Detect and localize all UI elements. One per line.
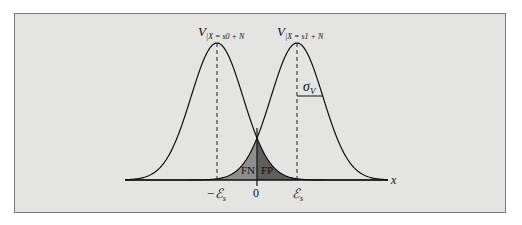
fn-label: FN xyxy=(241,164,255,176)
fn-region xyxy=(125,138,257,180)
gaussian-diagram: σV V|X = s0 + N V|X = s1 + N FN FP −ℰs 0… xyxy=(0,0,522,225)
fp-label: FP xyxy=(261,164,273,176)
neg-es-tick-label: −ℰs xyxy=(206,186,226,203)
sigma-label: σV xyxy=(303,79,317,96)
right-curve-label: V|X = s1 + N xyxy=(277,24,324,41)
x-axis-label: x xyxy=(390,173,397,187)
left-curve-label: V|X = s0 + N xyxy=(198,24,245,41)
fp-region xyxy=(257,138,388,180)
zero-tick-label: 0 xyxy=(253,186,259,200)
es-tick-label: ℰs xyxy=(292,186,303,203)
